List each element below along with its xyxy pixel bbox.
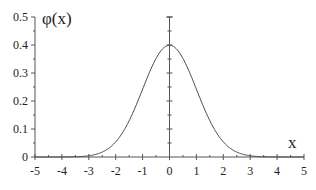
y-tick-label: 0.1 (13, 122, 28, 136)
x-axis-title: x (288, 133, 297, 152)
y-tick-label: 0.2 (13, 94, 28, 108)
x-tick-label: 1 (193, 164, 199, 178)
x-tick-label: 5 (301, 164, 307, 178)
x-tick-label: -2 (111, 164, 121, 178)
x-tick-label: 0 (167, 164, 173, 178)
y-axis-title: φ(x) (42, 9, 72, 28)
normal-density-chart: 00.10.20.30.40.5-5-4-3-2-1012345 φ(x) x (0, 0, 316, 190)
x-tick-label: 3 (247, 164, 253, 178)
tick-labels: 00.10.20.30.40.5-5-4-3-2-1012345 (13, 10, 307, 178)
x-tick-label: -5 (30, 164, 40, 178)
y-tick-label: 0.5 (13, 10, 28, 24)
x-tick-label: -3 (84, 164, 94, 178)
y-tick-label: 0.4 (13, 38, 28, 52)
y-tick-label: 0.3 (13, 66, 28, 80)
axis-ticks (31, 17, 304, 160)
y-tick-label: 0 (22, 150, 28, 164)
x-tick-label: -1 (138, 164, 148, 178)
x-tick-label: 4 (274, 164, 280, 178)
x-tick-label: -4 (57, 164, 67, 178)
x-tick-label: 2 (220, 164, 226, 178)
